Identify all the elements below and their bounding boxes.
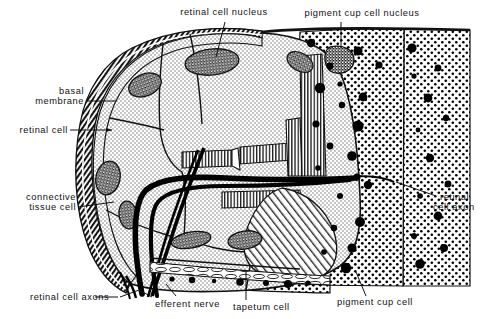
label-retinal-cell: retinal cell (0, 125, 68, 136)
pigment-granule (355, 217, 365, 227)
pigment-granule (347, 151, 357, 161)
pigment-granule (359, 93, 368, 102)
pigment-granule (284, 280, 292, 288)
pigment-granule (440, 244, 448, 252)
pigment-granule (263, 280, 269, 286)
pigment-granule (312, 120, 319, 127)
pigment-granule (352, 120, 363, 131)
label-retinal-cell-nucleus: retinal cell nucleus (164, 7, 284, 18)
pigment-granule (339, 102, 345, 108)
label-retinal-cell-axons: retinal cell axons (30, 292, 109, 303)
pigment-granule (424, 94, 433, 103)
pigment-granule (445, 181, 452, 188)
pigment-granule (411, 73, 416, 78)
label-retinal-cell-axon-line1: retinal (440, 192, 469, 203)
pigment-granule (307, 39, 315, 47)
pigment-granule (337, 81, 342, 86)
label-connective-tissue-cell-line2: tissue cell (0, 202, 76, 213)
pigment-granule (305, 280, 310, 285)
pigment-granule (321, 249, 327, 255)
pigment-granule (434, 212, 443, 221)
label-basal-membrane-line2: membrane (0, 96, 84, 107)
pigment-granule (416, 128, 421, 133)
pigment-granule (415, 259, 425, 269)
pigment-granule (337, 193, 343, 199)
pigment-granule (435, 65, 442, 72)
pigment-granule (327, 143, 334, 150)
pigment-granule (327, 63, 334, 70)
pigment-granule (212, 279, 216, 283)
pigment-granule (169, 276, 174, 281)
pigment-granule (347, 243, 356, 252)
pigment-granule (353, 46, 362, 55)
label-efferent-nerve: efferent nerve (155, 299, 220, 310)
pigment-granule (331, 225, 337, 231)
label-pigment-cup-cell-nucleus: pigment cup cell nucleus (282, 8, 442, 19)
pigment-granule (411, 233, 417, 239)
pigment-granule (315, 165, 321, 171)
pigment-granule (407, 43, 416, 52)
label-pigment-cup-cell: pigment cup cell (337, 297, 413, 308)
figure-canvas: retinal cell nucleus pigment cup cell nu… (0, 0, 488, 319)
label-basal-membrane-line1: basal (0, 86, 84, 97)
pigment-granule (315, 83, 325, 93)
pigment-granule (364, 181, 372, 189)
pigment-granule (417, 193, 423, 199)
pigment-granule (341, 263, 351, 273)
pigment-granule (426, 154, 434, 162)
pigment-granule (189, 277, 195, 283)
label-connective-tissue-cell-line1: connective (0, 192, 76, 203)
label-tapetum-cell: tapetum cell (233, 302, 290, 313)
eye-cross-section-diagram (0, 0, 488, 319)
pigment-granule (443, 115, 449, 121)
label-retinal-cell-axon-line2: cell axon (433, 202, 475, 213)
pigment-granule (375, 61, 382, 68)
pigment-granule (236, 278, 244, 286)
